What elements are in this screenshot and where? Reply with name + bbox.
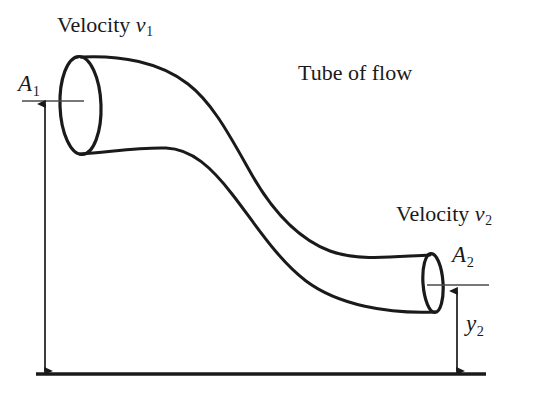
velocity-1-word: Velocity <box>57 12 136 37</box>
area-a1-subscript: 1 <box>32 83 40 99</box>
tube-of-flow-body <box>58 56 445 313</box>
velocity-1-subscript: 1 <box>146 24 153 39</box>
height-y2-subscript: 2 <box>476 323 484 339</box>
area-a1-symbol: A <box>18 71 32 96</box>
area-a2-label: A2 <box>452 243 474 269</box>
tube-left-opening-ellipse <box>58 56 102 155</box>
tube-right-opening-ellipse <box>421 253 445 313</box>
height-y2-symbol: y <box>466 311 476 336</box>
tube-of-flow-label: Tube of flow <box>298 62 412 84</box>
velocity-1-label: Velocity v1 <box>57 14 153 39</box>
tube-lower-wall <box>80 148 435 312</box>
velocity-2-label: Velocity v2 <box>396 203 492 228</box>
tube-of-flow-diagram: Velocity v1 Tube of flow Velocity v2 A1 … <box>0 0 535 395</box>
velocity-2-symbol: v <box>475 201 485 226</box>
area-a2-subscript: 2 <box>466 254 474 270</box>
velocity-2-word: Velocity <box>396 201 475 226</box>
height-y2-label: y2 <box>466 312 484 338</box>
area-a2-symbol: A <box>452 242 466 267</box>
area-a1-label: A1 <box>18 72 40 98</box>
velocity-2-subscript: 2 <box>485 213 492 228</box>
velocity-1-symbol: v <box>136 12 146 37</box>
diagram-canvas <box>0 0 535 395</box>
